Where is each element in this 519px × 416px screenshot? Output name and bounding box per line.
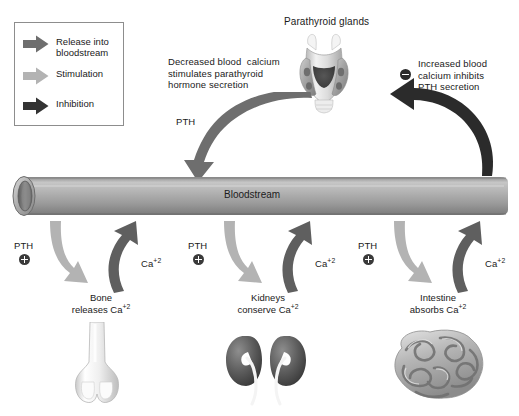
intestine-stimulation-arrow bbox=[386, 221, 438, 293]
legend-item-release: Release into bloodstream bbox=[23, 35, 109, 59]
legend-box: Release into bloodstream Stimulation Inh… bbox=[14, 22, 124, 126]
legend-item-stimulation: Stimulation bbox=[23, 67, 103, 85]
right-arrow-icon bbox=[23, 35, 49, 53]
bone-pth-label: PTH bbox=[14, 240, 33, 252]
right-arrow-icon bbox=[23, 97, 49, 115]
kidneys-label-line2-sup: +2 bbox=[291, 302, 299, 309]
kidneys-calcium-label: Ca+2 bbox=[304, 246, 335, 281]
intestine-calcium-label: Ca+2 bbox=[474, 246, 505, 281]
kidneys-label-line2-base: conserve Ca bbox=[237, 304, 290, 315]
legend-label-stimulation: Stimulation bbox=[56, 67, 103, 79]
kidneys-calcium-base: Ca bbox=[315, 258, 327, 269]
femur-bone-icon bbox=[62, 322, 132, 414]
legend-label-release: Release into bloodstream bbox=[56, 35, 109, 59]
bone-calcium-label: Ca+2 bbox=[130, 246, 161, 281]
bone-calcium-base: Ca bbox=[141, 258, 153, 269]
kidneys-organ-label: Kidneys conserve Ca+2 bbox=[208, 292, 328, 315]
bone-label-line1: Bone bbox=[46, 292, 156, 304]
kidneys-plus-sign-icon bbox=[193, 254, 204, 265]
bone-organ-label: Bone releases Ca+2 bbox=[46, 292, 156, 315]
bone-stimulation-arrow bbox=[42, 221, 94, 293]
bone-label-line2-sup: +2 bbox=[122, 302, 130, 309]
intestine-organ-label: Intestine absorbs Ca+2 bbox=[378, 292, 498, 315]
pth-release-arrow bbox=[176, 92, 316, 184]
kidneys-stimulation-arrow bbox=[216, 221, 268, 293]
bone-plus-sign-icon bbox=[19, 254, 30, 265]
bone-label-line2-base: releases Ca bbox=[72, 304, 123, 315]
annotation-decreased-calcium: Decreased blood calcium stimulates parat… bbox=[168, 56, 280, 91]
bone-calcium-sup: +2 bbox=[153, 256, 161, 263]
kidneys-icon bbox=[218, 332, 314, 412]
kidneys-calcium-sup: +2 bbox=[327, 256, 335, 263]
intestine-plus-sign-icon bbox=[363, 254, 374, 265]
legend-label-inhibition: Inhibition bbox=[56, 97, 94, 109]
legend-item-inhibition: Inhibition bbox=[23, 97, 94, 115]
parathyroid-glands-title: Parathyroid glands bbox=[284, 16, 369, 28]
kidneys-pth-label: PTH bbox=[188, 240, 207, 252]
diagram-canvas: Release into bloodstream Stimulation Inh… bbox=[0, 0, 519, 416]
intestine-icon bbox=[382, 328, 494, 412]
calcium-inhibition-arrow bbox=[352, 76, 502, 178]
kidneys-label-line1: Kidneys bbox=[208, 292, 328, 304]
intestine-calcium-sup: +2 bbox=[497, 256, 505, 263]
pth-arrow-label: PTH bbox=[176, 116, 195, 128]
bloodstream-label: Bloodstream bbox=[224, 189, 280, 200]
intestine-calcium-base: Ca bbox=[485, 258, 497, 269]
intestine-label-line1: Intestine bbox=[378, 292, 498, 304]
intestine-label-line2-sup: +2 bbox=[458, 302, 466, 309]
intestine-pth-label: PTH bbox=[358, 240, 377, 252]
intestine-label-line2-base: absorbs Ca bbox=[410, 304, 459, 315]
right-arrow-icon bbox=[23, 67, 49, 85]
